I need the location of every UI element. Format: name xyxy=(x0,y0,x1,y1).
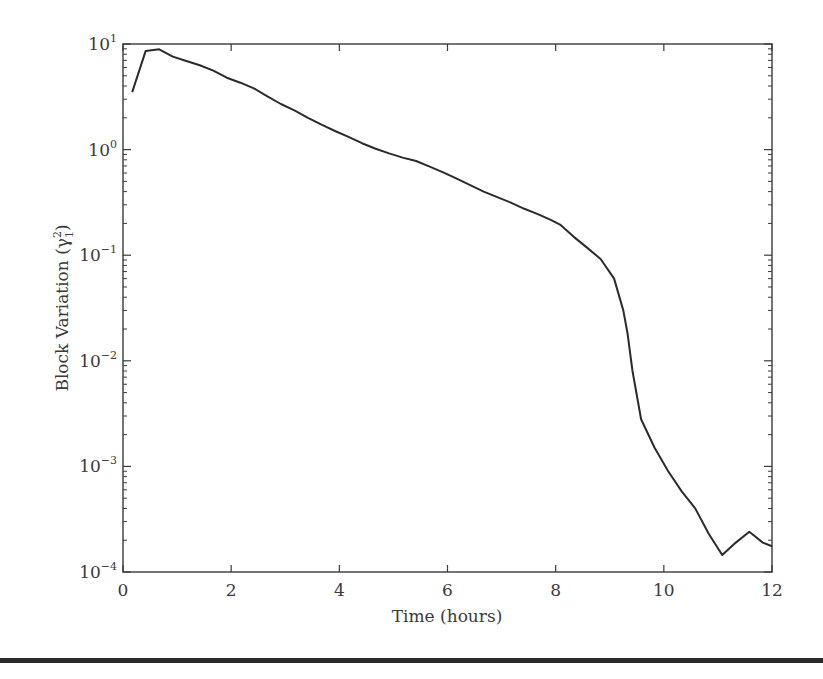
y-axis-label-sub: 1 xyxy=(63,231,76,238)
x-axis: 024681012 xyxy=(118,44,783,600)
y-axis: 10−410−310−210−1100101 xyxy=(79,32,772,582)
x-tick-label: 4 xyxy=(334,580,345,600)
chart-svg: 024681012 10−410−310−210−1100101 Time (h… xyxy=(0,0,823,679)
series-layer xyxy=(132,49,772,555)
series-line xyxy=(132,49,772,555)
x-axis-label: Time (hours) xyxy=(392,606,503,626)
x-tick-label: 2 xyxy=(226,580,237,600)
y-tick-label: 101 xyxy=(88,32,117,54)
y-axis-label: Block Variation (γ21) xyxy=(51,224,76,391)
x-tick-label: 8 xyxy=(550,580,561,600)
y-tick-label: 10−2 xyxy=(79,349,117,371)
y-tick-label: 10−4 xyxy=(79,560,117,582)
x-tick-label: 6 xyxy=(442,580,453,600)
y-tick-label: 10−3 xyxy=(79,454,117,476)
svg-text:Block Variation (γ21): Block Variation (γ21) xyxy=(51,224,76,391)
y-tick-label: 100 xyxy=(88,138,117,160)
plot-frame xyxy=(123,44,772,572)
chart: 024681012 10−410−310−210−1100101 Time (h… xyxy=(0,0,823,679)
y-axis-label-main: Block Variation (γ xyxy=(52,238,72,392)
x-tick-label: 10 xyxy=(653,580,675,600)
x-tick-label: 12 xyxy=(761,580,783,600)
y-tick-label: 10−1 xyxy=(79,243,117,265)
plot-border xyxy=(123,44,772,572)
y-axis-label-close: ) xyxy=(52,224,72,231)
x-tick-label: 0 xyxy=(118,580,129,600)
page-divider-rule xyxy=(0,658,823,663)
